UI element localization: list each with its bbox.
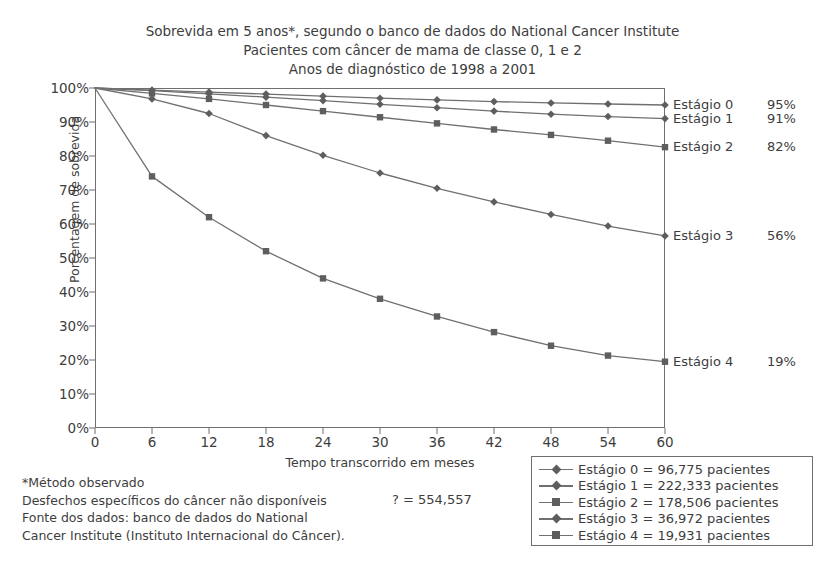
legend-item-label: Estágio 3 = 36,972 pacientes (578, 511, 770, 526)
legend-diamond-marker-icon (539, 512, 573, 526)
plot-area (95, 88, 665, 428)
legend-square-marker-icon (539, 495, 573, 509)
legend-item-3[interactable]: Estágio 3 = 36,972 pacientes (539, 511, 812, 528)
end-label-percent: 82% (767, 139, 813, 154)
legend-item-label: Estágio 1 = 222,333 pacientes (578, 478, 778, 493)
legend-item-4[interactable]: Estágio 4 = 19,931 pacientes (539, 527, 812, 544)
legend-diamond-marker-icon (539, 479, 573, 493)
x-tick-label: 12 (200, 434, 217, 450)
end-label-name: Estágio 2 (673, 139, 757, 154)
legend-item-1[interactable]: Estágio 1 = 222,333 pacientes (539, 478, 812, 495)
end-label-percent: 91% (767, 111, 813, 126)
end-label-name: Estágio 3 (673, 228, 757, 243)
legend-item-label: Estágio 4 = 19,931 pacientes (578, 528, 770, 543)
y-tick-label: 100% (37, 80, 89, 96)
x-tick-label: 30 (371, 434, 388, 450)
chart-title-line-2: Pacientes com câncer de mama de classe 0… (0, 41, 825, 60)
end-label-name: Estágio 4 (673, 354, 757, 369)
legend-item-2[interactable]: Estágio 2 = 178,506 pacientes (539, 494, 812, 511)
end-label-percent: 56% (767, 228, 813, 243)
x-tick-label: 60 (656, 434, 673, 450)
total-patients-note: ? = 554,557 (392, 492, 472, 507)
legend-item-label: Estágio 2 = 178,506 pacientes (578, 495, 778, 510)
x-tick-label: 6 (148, 434, 157, 450)
chart-page: Sobrevida em 5 anos*, segundo o banco de… (0, 0, 825, 572)
end-label-percent: 19% (767, 354, 813, 369)
legend-diamond-marker-icon (539, 462, 573, 476)
y-axis-label: Porcentagem de sobrevida (67, 100, 82, 300)
y-tick-label: 20% (37, 352, 89, 368)
y-tick-label: 10% (37, 386, 89, 402)
y-tick-label: 0% (37, 420, 89, 436)
footnote-line-2: Desfechos específicos do câncer não disp… (22, 492, 422, 510)
x-tick-label: 36 (428, 434, 445, 450)
chart-title-line-1: Sobrevida em 5 anos*, segundo o banco de… (0, 22, 825, 41)
chart-title-block: Sobrevida em 5 anos*, segundo o banco de… (0, 22, 825, 79)
legend-item-0[interactable]: Estágio 0 = 96,775 pacientes (539, 461, 812, 478)
y-tick-label: 30% (37, 318, 89, 334)
legend-item-label: Estágio 0 = 96,775 pacientes (578, 462, 770, 477)
chart-title-line-3: Anos de diagnóstico de 1998 a 2001 (0, 60, 825, 79)
x-tick-label: 42 (485, 434, 502, 450)
legend-square-marker-icon (539, 528, 573, 542)
legend-box: Estágio 0 = 96,775 pacientesEstágio 1 = … (531, 456, 813, 546)
x-tick-label: 48 (542, 434, 559, 450)
footnote-line-1: *Método observado (22, 474, 422, 492)
footnote-line-4: Cancer Institute (Instituto Internaciona… (22, 527, 422, 545)
x-tick-label: 18 (257, 434, 274, 450)
end-label-name: Estágio 1 (673, 111, 757, 126)
footnote-line-3: Fonte dos dados: banco de dados do Natio… (22, 509, 422, 527)
x-axis-ticks: 06121824303642485460 (95, 434, 665, 454)
x-tick-label: 0 (91, 434, 100, 450)
x-tick-label: 24 (314, 434, 331, 450)
x-tick-label: 54 (599, 434, 616, 450)
footnotes: *Método observado Desfechos específicos … (22, 474, 422, 544)
